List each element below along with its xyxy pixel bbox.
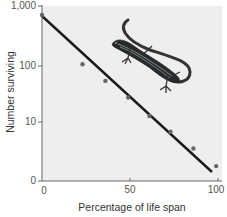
survivorship-chart: 1,000 100 10 0 0 50 100 Percentage of li… [0, 0, 227, 217]
data-point [40, 13, 44, 17]
y-tick-label: 100 [19, 60, 36, 71]
plot-area [42, 6, 222, 181]
y-tick-label: 1,000 [11, 0, 36, 11]
data-point [191, 146, 195, 150]
data-point [147, 114, 151, 118]
data-point [214, 164, 218, 168]
data-point [80, 62, 84, 66]
data-point [168, 130, 172, 134]
y-axis-title: Number surviving [4, 51, 16, 133]
data-point [126, 95, 130, 99]
x-axis-title: Percentage of life span [78, 201, 186, 213]
y-tick-label: 0 [30, 175, 36, 186]
x-tick-label: 0 [41, 185, 47, 196]
y-tick-label: 10 [25, 116, 37, 127]
y-ticks [38, 6, 42, 181]
x-tick-label: 50 [124, 184, 136, 195]
x-tick-label: 100 [208, 184, 225, 195]
data-point [103, 79, 107, 83]
